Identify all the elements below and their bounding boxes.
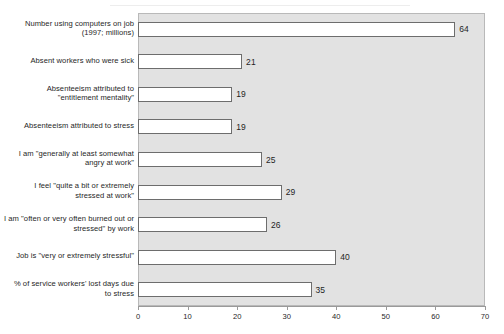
category-label-line: Job is "very or extremely stressful" <box>0 251 134 261</box>
category-label: Job is "very or extremely stressful" <box>0 251 134 261</box>
x-axis-tick <box>386 306 387 310</box>
category-label-line: Absenteeism attributed to <box>0 84 134 94</box>
bar-chart: 642119192529264035 Number using computer… <box>0 0 504 334</box>
category-label: I am "often or very often burned out ors… <box>0 214 134 233</box>
category-label-line: Absent workers who were sick <box>0 56 134 66</box>
bar-value-label: 25 <box>266 155 276 165</box>
bar-value-label: 26 <box>271 220 281 230</box>
x-axis-tick-label: 10 <box>183 312 191 321</box>
category-label-line: (1997; millions) <box>0 28 134 38</box>
category-label: I am "generally at least somewhatangry a… <box>0 149 134 168</box>
category-label-line: to stress <box>0 289 134 299</box>
x-axis-tick <box>287 306 288 310</box>
category-label-line: stressed" by work <box>0 224 134 234</box>
category-label-line: angry at work" <box>0 158 134 168</box>
bar <box>138 152 262 167</box>
bar-value-label: 40 <box>340 252 350 262</box>
x-axis-tick <box>485 306 486 310</box>
category-label-line: "entitlement mentality" <box>0 93 134 103</box>
bar <box>138 119 232 134</box>
x-axis-tick-label: 0 <box>136 312 140 321</box>
x-axis-tick <box>138 306 139 310</box>
category-label-line: I feel "quite a bit or extremely <box>0 181 134 191</box>
x-axis-tick <box>336 306 337 310</box>
x-axis-ticks: 010203040506070 <box>138 306 485 330</box>
category-label: Absenteeism attributed to"entitlement me… <box>0 84 134 103</box>
bar <box>138 185 282 200</box>
x-axis-tick <box>188 306 189 310</box>
x-axis-tick-label: 60 <box>431 312 439 321</box>
bar-value-label: 19 <box>236 122 246 132</box>
category-label: Number using computers on job(1997; mill… <box>0 19 134 38</box>
category-label-line: Absenteeism attributed to stress <box>0 121 134 131</box>
x-axis-tick-label: 30 <box>282 312 290 321</box>
bar-value-label: 19 <box>236 89 246 99</box>
bar <box>138 282 312 297</box>
x-axis-tick-label: 40 <box>332 312 340 321</box>
category-label-line: Number using computers on job <box>0 19 134 29</box>
bar-value-label: 29 <box>286 187 296 197</box>
bar <box>138 87 232 102</box>
bar <box>138 217 267 232</box>
category-label-line: I am "generally at least somewhat <box>0 149 134 159</box>
category-label-line: I am "often or very often burned out or <box>0 214 134 224</box>
x-axis-tick-label: 70 <box>481 312 489 321</box>
category-label: Absenteeism attributed to stress <box>0 121 134 131</box>
x-axis-tick-label: 20 <box>233 312 241 321</box>
x-axis-tick-label: 50 <box>382 312 390 321</box>
x-axis-tick <box>435 306 436 310</box>
x-axis-tick <box>237 306 238 310</box>
bar <box>138 54 242 69</box>
category-label: % of service workers' lost days dueto st… <box>0 279 134 298</box>
bar <box>138 250 336 265</box>
bar-value-label: 21 <box>246 57 256 67</box>
bar <box>138 22 455 37</box>
category-label: Absent workers who were sick <box>0 56 134 66</box>
category-label: I feel "quite a bit or extremelystressed… <box>0 181 134 200</box>
bar-value-label: 35 <box>316 285 326 295</box>
bar-value-label: 64 <box>459 24 469 34</box>
scan-artifact-line <box>110 5 410 6</box>
category-label-line: stressed at work" <box>0 191 134 201</box>
category-label-line: % of service workers' lost days due <box>0 279 134 289</box>
